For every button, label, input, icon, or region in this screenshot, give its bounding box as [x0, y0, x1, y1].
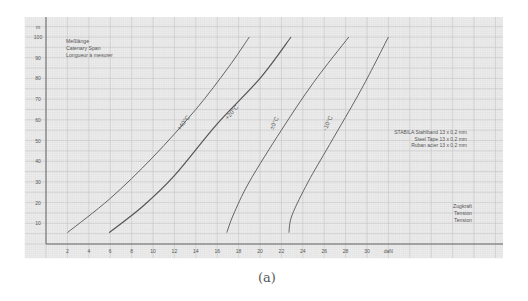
svg-text:70: 70 [35, 96, 41, 102]
svg-text:Meßlänge: Meßlänge [66, 38, 89, 44]
svg-text:20: 20 [257, 248, 263, 254]
svg-text:60: 60 [35, 117, 41, 123]
svg-text:10: 10 [35, 220, 41, 226]
svg-text:Steel Tape 13 x 0,2 mm: Steel Tape 13 x 0,2 mm [415, 136, 467, 142]
svg-text:30: 30 [35, 179, 41, 185]
svg-text:18: 18 [236, 248, 242, 254]
catenary-tension-chart: 24681012141618202224262830daN10203040506… [0, 0, 528, 301]
svg-text:2: 2 [66, 248, 69, 254]
svg-text:14: 14 [193, 248, 199, 254]
svg-text:Ruban acier 13 x 0,2 mm: Ruban acier 13 x 0,2 mm [411, 142, 467, 148]
svg-text:28: 28 [343, 248, 349, 254]
svg-text:4: 4 [87, 248, 90, 254]
svg-text:80: 80 [35, 75, 41, 81]
svg-text:22: 22 [279, 248, 285, 254]
svg-text:20: 20 [35, 200, 41, 206]
svg-text:6: 6 [109, 248, 112, 254]
chart-plot: 24681012141618202224262830daN10203040506… [0, 0, 528, 301]
svg-text:90: 90 [35, 55, 41, 61]
svg-text:STABILA Stahlband 13 x 0,2 mm: STABILA Stahlband 13 x 0,2 mm [394, 129, 467, 135]
svg-text:Catenary Span: Catenary Span [66, 45, 101, 51]
svg-text:10: 10 [150, 248, 156, 254]
svg-text:8: 8 [130, 248, 133, 254]
svg-text:24: 24 [300, 248, 306, 254]
svg-text:m: m [36, 24, 40, 30]
svg-text:Longueur à mesurer: Longueur à mesurer [66, 52, 113, 58]
svg-text:Tension: Tension [454, 217, 472, 223]
svg-text:16: 16 [214, 248, 220, 254]
svg-text:50: 50 [35, 138, 41, 144]
svg-text:daN: daN [384, 248, 394, 254]
svg-text:40: 40 [35, 158, 41, 164]
figure-caption: (a) [252, 270, 282, 285]
svg-text:100: 100 [34, 34, 43, 40]
svg-text:Zugkraft: Zugkraft [453, 203, 473, 209]
svg-text:12: 12 [172, 248, 178, 254]
svg-text:30: 30 [364, 248, 370, 254]
svg-text:Tension: Tension [454, 210, 472, 216]
svg-text:26: 26 [321, 248, 327, 254]
